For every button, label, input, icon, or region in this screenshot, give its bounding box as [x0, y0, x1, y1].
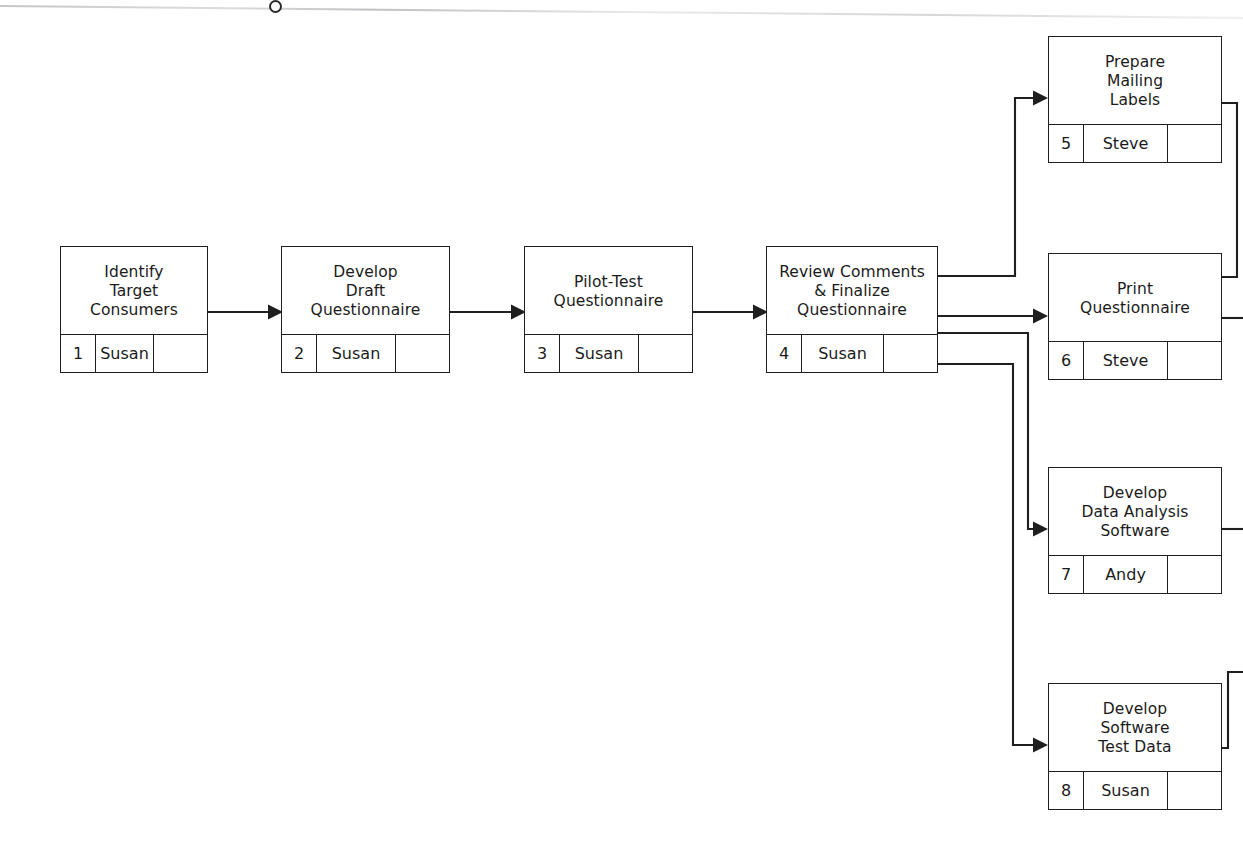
task-extra — [1168, 125, 1221, 162]
task-owner: Steve — [1084, 125, 1168, 162]
task-node-7[interactable]: Develop Data Analysis Software 7 Andy — [1048, 467, 1222, 594]
task-title: Print Questionnaire — [1049, 254, 1221, 341]
task-owner: Susan — [317, 335, 396, 372]
task-footer: 8 Susan — [1049, 771, 1221, 809]
task-number: 5 — [1049, 125, 1084, 162]
task-number: 3 — [525, 335, 560, 372]
edge-task4-task6 — [938, 309, 1048, 324]
task-number: 2 — [282, 335, 317, 372]
task-owner: Susan — [96, 335, 154, 372]
flowchart-canvas: Identify Target Consumers 1 Susan Develo… — [0, 0, 1243, 845]
task-owner: Susan — [1084, 772, 1168, 809]
task-footer: 2 Susan — [282, 334, 449, 372]
task-node-1[interactable]: Identify Target Consumers 1 Susan — [60, 246, 208, 373]
task-extra — [639, 335, 692, 372]
task-node-8[interactable]: Develop Software Test Data 8 Susan — [1048, 683, 1222, 810]
scan-artifact-icon — [269, 0, 282, 13]
task-title: Review Comments & Finalize Questionnaire — [767, 247, 937, 334]
task-node-2[interactable]: Develop Draft Questionnaire 2 Susan — [281, 246, 450, 373]
task-footer: 5 Steve — [1049, 124, 1221, 162]
task-extra — [396, 335, 449, 372]
task-extra — [884, 335, 937, 372]
edge-task4-task5 — [938, 91, 1048, 277]
task-number: 6 — [1049, 342, 1084, 379]
task-node-3[interactable]: Pilot-Test Questionnaire 3 Susan — [524, 246, 693, 373]
task-footer: 4 Susan — [767, 334, 937, 372]
task-title: Develop Software Test Data — [1049, 684, 1221, 771]
task-number: 7 — [1049, 556, 1084, 593]
task-title: Identify Target Consumers — [61, 247, 207, 334]
task-number: 8 — [1049, 772, 1084, 809]
edge-task4-task7 — [938, 333, 1048, 537]
task-owner: Andy — [1084, 556, 1168, 593]
task-extra — [1168, 342, 1221, 379]
task-footer: 1 Susan — [61, 334, 207, 372]
task-owner: Susan — [560, 335, 639, 372]
task-number: 4 — [767, 335, 802, 372]
page-top-rule — [0, 5, 1243, 19]
task-footer: 6 Steve — [1049, 341, 1221, 379]
task-owner: Steve — [1084, 342, 1168, 379]
edge-task4-task8 — [938, 364, 1048, 753]
task-node-5[interactable]: Prepare Mailing Labels 5 Steve — [1048, 36, 1222, 163]
task-title: Develop Draft Questionnaire — [282, 247, 449, 334]
task-extra — [154, 335, 207, 372]
edge-task1-task2 — [208, 305, 283, 320]
task-extra — [1168, 556, 1221, 593]
edge-task8-offpage — [1222, 672, 1243, 748]
task-title: Pilot-Test Questionnaire — [525, 247, 692, 334]
task-title: Develop Data Analysis Software — [1049, 468, 1221, 555]
task-number: 1 — [61, 335, 96, 372]
task-footer: 7 Andy — [1049, 555, 1221, 593]
edge-task3-task4 — [693, 305, 768, 320]
task-extra — [1168, 772, 1221, 809]
edge-task2-task3 — [450, 305, 526, 320]
task-node-6[interactable]: Print Questionnaire 6 Steve — [1048, 253, 1222, 380]
task-footer: 3 Susan — [525, 334, 692, 372]
task-node-4[interactable]: Review Comments & Finalize Questionnaire… — [766, 246, 938, 373]
task-title: Prepare Mailing Labels — [1049, 37, 1221, 124]
edge-task5-offpage — [1222, 103, 1237, 277]
task-owner: Susan — [802, 335, 884, 372]
